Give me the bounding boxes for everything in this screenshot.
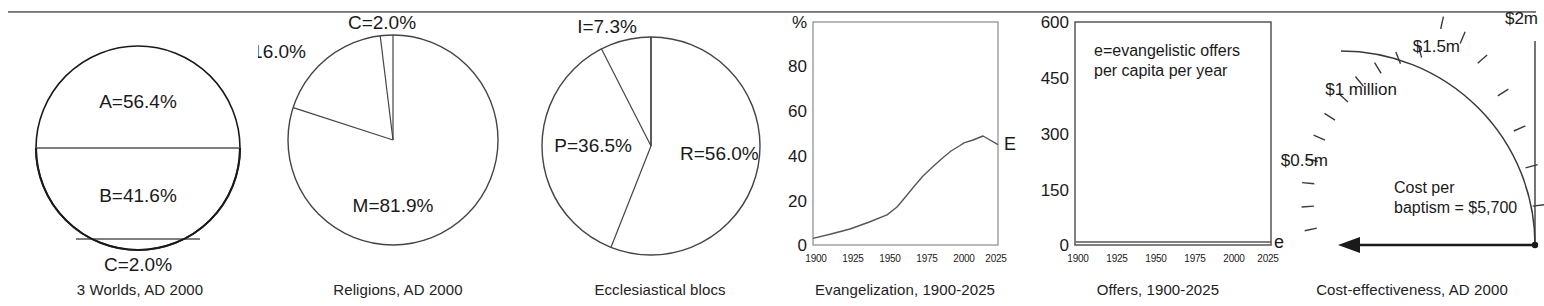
plot-frame: [813, 22, 998, 245]
caption-offers: Offers, 1900-2025: [1018, 281, 1298, 298]
offers-chart: 600 450 300 150 0 1900 1925 1950 1975 20…: [1018, 0, 1298, 280]
slice-label-c: C=2.0%: [348, 12, 416, 33]
x-tick-label-1925: 1925: [1106, 253, 1128, 264]
y-tick-label-600: 600: [1041, 13, 1069, 32]
panel-cost-effectiveness: $0.5m $1 million $1.5m $2m Cost per bapt…: [1280, 0, 1544, 306]
panel-evangelization: % 80 60 40 20 0 1900 1925 1950 1975 2000…: [780, 0, 1030, 306]
caption-evangelization: Evangelization, 1900-2025: [780, 281, 1030, 298]
slice-label-r: R=56.0%: [680, 143, 759, 164]
series-end-label-e: E: [1004, 134, 1016, 154]
x-tick-label-1900: 1900: [1067, 253, 1089, 264]
gauge-scale-label-1-5m: $1.5m: [1413, 37, 1460, 56]
y-tick-label-60: 60: [788, 102, 807, 121]
offers-note-line-2: per capita per year: [1094, 62, 1228, 79]
cost-effectiveness-gauge: $0.5m $1 million $1.5m $2m Cost per bapt…: [1280, 0, 1544, 280]
x-tick-label-2000: 2000: [953, 253, 975, 264]
slice-label-i: I=7.3%: [577, 16, 637, 37]
x-tick-label-1950: 1950: [1145, 253, 1167, 264]
y-tick-label-150: 150: [1041, 181, 1069, 200]
x-tick-label-1900: 1900: [805, 253, 827, 264]
ecclesiastical-blocs-chart: R=56.0% P=36.5% I=7.3%: [520, 0, 800, 280]
three-worlds-chart: A=56.4% B=41.6% C=2.0%: [0, 0, 280, 280]
slice-label-m: M=81.9%: [353, 195, 434, 216]
y-tick-label-20: 20: [788, 192, 807, 211]
y-tick-label-450: 450: [1041, 69, 1069, 88]
panel-three-worlds: A=56.4% B=41.6% C=2.0% 3 Worlds, AD 2000: [0, 0, 280, 306]
offers-note-line-1: e=evangelistic offers: [1094, 42, 1240, 59]
x-tick-label-2000: 2000: [1223, 253, 1245, 264]
x-tick-label-1950: 1950: [879, 253, 901, 264]
religions-chart: M=81.9% T=16.0% C=2.0%: [258, 0, 538, 280]
slice-divider-t-m: [293, 108, 393, 140]
x-tick-label-1975: 1975: [1184, 253, 1206, 264]
y-axis-unit-label: %: [792, 13, 807, 32]
panel-ecclesiastical-blocs: R=56.0% P=36.5% I=7.3% Ecclesiastical bl…: [520, 0, 800, 306]
slice-label-t: T=16.0%: [258, 41, 306, 62]
gauge-scale-label-0-5m: $0.5m: [1281, 151, 1328, 170]
gauge-scale-label-1-million: $1 million: [1325, 80, 1397, 99]
slice-divider-r-p: [611, 146, 651, 247]
slice-divider-p-i: [602, 49, 652, 146]
gauge-note-line-2: baptism = $5,700: [1394, 199, 1517, 216]
statistical-figure-panel: A=56.4% B=41.6% C=2.0% 3 Worlds, AD 2000…: [0, 0, 1544, 306]
caption-religions: Religions, AD 2000: [258, 281, 538, 298]
evangelization-chart: % 80 60 40 20 0 1900 1925 1950 1975 2000…: [780, 0, 1030, 280]
caption-three-worlds: 3 Worlds, AD 2000: [0, 281, 280, 298]
gauge-scale-label-2m: $2m: [1505, 9, 1538, 28]
gauge-pivot-dot: [1532, 242, 1538, 248]
y-tick-label-300: 300: [1041, 125, 1069, 144]
panel-religions: M=81.9% T=16.0% C=2.0% Religions, AD 200…: [258, 0, 538, 306]
slice-label-b: B=41.6%: [99, 185, 177, 206]
slice-label-c: C=2.0%: [104, 254, 172, 275]
gauge-pointer-arrowhead: [1338, 237, 1360, 253]
y-tick-label-40: 40: [788, 147, 807, 166]
x-tick-label-1975: 1975: [916, 253, 938, 264]
slice-label-a: A=56.4%: [99, 91, 177, 112]
x-tick-label-1925: 1925: [842, 253, 864, 264]
gauge-note-line-1: Cost per: [1394, 179, 1455, 196]
x-tick-label-2025: 2025: [1257, 253, 1279, 264]
slice-divider-c-t: [380, 36, 393, 140]
slice-label-p: P=36.5%: [554, 135, 632, 156]
caption-ecclesiastical-blocs: Ecclesiastical blocs: [520, 281, 800, 298]
caption-cost-effectiveness: Cost-effectiveness, AD 2000: [1280, 281, 1544, 298]
panel-offers: 600 450 300 150 0 1900 1925 1950 1975 20…: [1018, 0, 1298, 306]
y-tick-label-80: 80: [788, 57, 807, 76]
series-polyline-e: [813, 136, 998, 238]
x-tick-label-2025: 2025: [985, 253, 1007, 264]
